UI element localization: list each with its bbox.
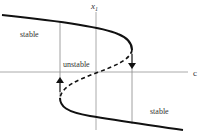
lower-stable-label: stable (150, 107, 169, 116)
upper-stable-label: stable (20, 30, 39, 39)
bifurcation-diagram: x1 c stable unstable stable (0, 0, 200, 133)
unstable-label: unstable (63, 60, 90, 69)
horizontal-axis-label: c (193, 68, 197, 78)
vertical-axis-label: x1 (90, 1, 98, 12)
